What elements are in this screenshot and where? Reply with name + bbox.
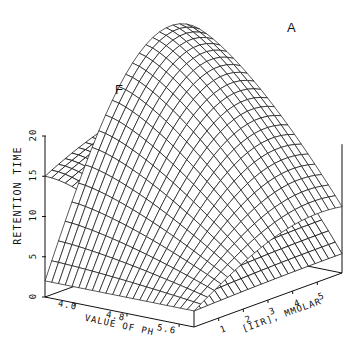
z-tick-15: 15 [28,169,38,182]
surface-a-label: A [287,20,296,35]
surface-f-label: F [115,82,123,97]
z-tick-0: 0 [28,293,38,299]
z-tick-10: 10 [28,209,38,222]
z-axis-title: RETENTION TIME [12,146,23,244]
z-tick-5: 5 [28,253,38,259]
z-tick-20: 20 [28,129,38,142]
